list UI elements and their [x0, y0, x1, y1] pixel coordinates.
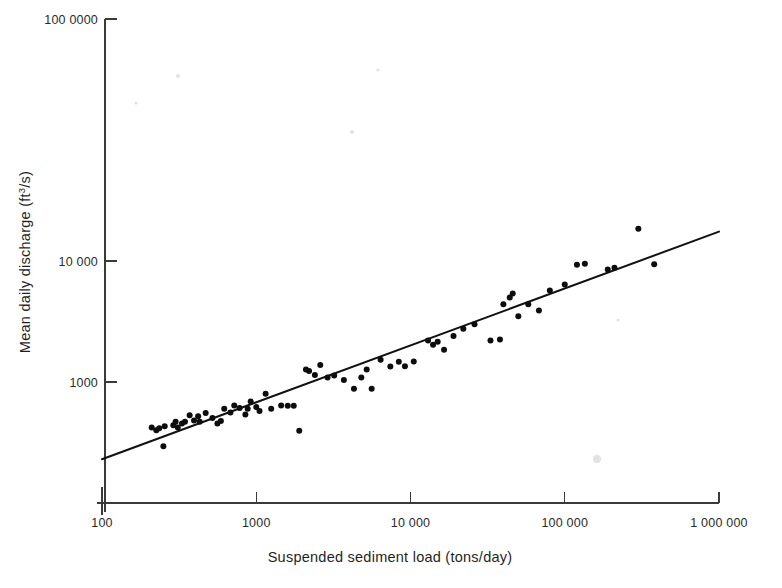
data-point — [487, 338, 493, 344]
chart-figure: 100010 000100 0000 100100010 000100 0001… — [0, 0, 782, 588]
data-point — [187, 412, 193, 418]
data-point — [525, 301, 531, 307]
data-point — [358, 374, 364, 380]
data-point — [441, 347, 447, 353]
data-point — [218, 418, 224, 424]
data-point — [257, 408, 263, 414]
y-tick-label: 1000 — [69, 376, 98, 390]
data-point — [378, 357, 384, 363]
data-point — [331, 373, 337, 379]
data-point — [562, 281, 568, 287]
data-point — [611, 265, 617, 271]
regression-trend-line — [102, 232, 719, 460]
x-axis-title: Suspended sediment load (tons/day) — [268, 549, 513, 565]
data-point — [162, 423, 168, 429]
data-point — [306, 368, 312, 374]
data-point — [472, 321, 478, 327]
data-point — [651, 261, 657, 267]
data-point — [536, 307, 542, 313]
y-axis-ticks: 100010 000100 0000 — [44, 13, 117, 390]
data-point — [325, 374, 331, 380]
data-point — [402, 363, 408, 369]
data-point — [460, 326, 466, 332]
data-point — [268, 406, 274, 412]
data-point — [515, 313, 521, 319]
scan-artifacts — [134, 68, 619, 463]
data-point — [195, 413, 201, 419]
data-point — [497, 336, 503, 342]
data-point — [285, 403, 291, 409]
data-point — [291, 403, 297, 409]
data-point — [160, 443, 166, 449]
data-point — [364, 366, 370, 372]
data-point — [242, 411, 248, 417]
data-point — [231, 402, 237, 408]
y-axis-title: Mean daily discharge (ft3/s) — [16, 171, 33, 353]
data-point — [387, 364, 393, 370]
data-point — [351, 386, 357, 392]
y-axis-title-tail: /s) — [17, 171, 33, 188]
data-point — [341, 377, 347, 383]
x-tick-label: 100 — [91, 516, 112, 530]
data-point — [635, 226, 641, 232]
x-tick-label: 100 000 — [541, 516, 588, 530]
data-point — [396, 359, 402, 365]
data-point — [317, 362, 323, 368]
data-point — [278, 402, 284, 408]
x-tick-label: 1 000 000 — [690, 516, 747, 530]
data-point — [173, 419, 179, 425]
data-point — [574, 262, 580, 268]
data-point — [227, 409, 233, 415]
data-point — [547, 288, 553, 294]
data-point — [435, 339, 441, 345]
data-point — [221, 406, 227, 412]
x-axis-ticks: 100100010 000100 0001 000 000 — [91, 487, 747, 530]
data-point — [263, 391, 269, 397]
data-point — [182, 419, 188, 425]
y-axis-title-base: Mean daily discharge (ft — [17, 193, 33, 353]
x-tick-label: 1000 — [242, 516, 271, 530]
data-point — [500, 301, 506, 307]
data-point — [209, 415, 215, 421]
y-tick-label: 100 0000 — [44, 13, 98, 27]
data-point — [248, 398, 254, 404]
data-point — [510, 290, 516, 296]
scatter-plot-svg: 100010 000100 0000 100100010 000100 0001… — [0, 0, 782, 588]
x-tick-label: 10 000 — [391, 516, 430, 530]
data-point — [369, 386, 375, 392]
data-point — [197, 419, 203, 425]
data-point — [450, 333, 456, 339]
data-point — [605, 267, 611, 273]
data-point — [237, 405, 243, 411]
data-point — [425, 338, 431, 344]
data-point — [411, 358, 417, 364]
data-point — [245, 406, 251, 412]
data-points-group — [149, 226, 657, 449]
data-point — [312, 372, 318, 378]
data-point — [582, 261, 588, 267]
data-point — [296, 428, 302, 434]
data-point — [203, 410, 209, 416]
y-tick-label: 10 000 — [59, 255, 98, 269]
data-point — [156, 425, 162, 431]
